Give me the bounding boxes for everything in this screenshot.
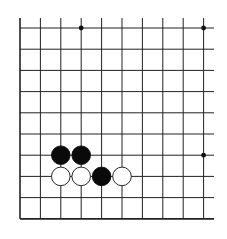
white-stone[interactable] [113, 167, 132, 186]
black-stone[interactable] [92, 167, 111, 186]
black-stone[interactable] [72, 146, 91, 165]
star-point [79, 26, 84, 31]
star-point [201, 26, 206, 31]
white-stone[interactable] [52, 167, 71, 186]
star-point [201, 153, 206, 158]
board-grid [20, 18, 214, 219]
stones [52, 146, 132, 186]
white-stone[interactable] [72, 167, 91, 186]
black-stone[interactable] [52, 146, 71, 165]
go-board [0, 0, 227, 239]
